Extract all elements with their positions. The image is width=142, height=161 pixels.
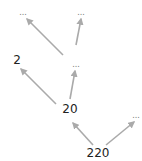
edge-arrow-nMid-to-nTopRight — [76, 19, 81, 45]
tree-edges — [0, 0, 142, 161]
tree-node-placeholder: ... — [19, 9, 27, 17]
tree-node-placeholder: ... — [72, 61, 80, 69]
tree-node-value: 220 — [87, 147, 110, 159]
tree-node-placeholder: ... — [77, 9, 85, 17]
edge-arrow-n220-to-nRight — [106, 122, 134, 145]
tree-node-value: 2 — [13, 54, 21, 66]
edge-arrow-n20-to-n2 — [21, 69, 56, 104]
edge-arrow-nMid-to-nTopLeft — [27, 19, 63, 55]
tree-node-placeholder: ... — [132, 112, 140, 120]
edge-arrow-n20-to-nMid — [70, 71, 75, 99]
edge-arrow-n220-to-n20 — [73, 123, 93, 145]
tree-node-value: 20 — [62, 103, 77, 115]
